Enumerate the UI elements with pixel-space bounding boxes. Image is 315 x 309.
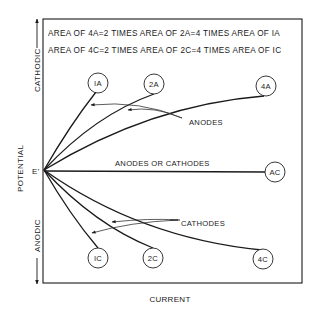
svg-text:IA: IA bbox=[94, 79, 102, 88]
circle-2A: 2A bbox=[144, 74, 164, 94]
plot-frame bbox=[43, 19, 302, 283]
circle-4A: 4A bbox=[256, 76, 276, 96]
potential-axis-label: POTENTIAL bbox=[16, 145, 25, 192]
origin-label: E' bbox=[32, 167, 40, 176]
anodes-label: ANODES bbox=[189, 118, 223, 127]
area-relation-cathodes: AREA OF 4C=2 TIMES AREA OF 2C=4 TIMES AR… bbox=[48, 46, 281, 55]
anodes-or-cathodes-label: ANODES OR CATHODES bbox=[115, 159, 210, 168]
curve-4C bbox=[44, 170, 262, 250]
svg-text:AC: AC bbox=[269, 168, 280, 177]
circle-1C: IC bbox=[88, 248, 108, 268]
svg-text:2A: 2A bbox=[149, 80, 160, 89]
curve-1A bbox=[44, 92, 96, 170]
anodes-leader-1 bbox=[91, 104, 182, 118]
curve-AC bbox=[44, 171, 265, 172]
circle-AC: AC bbox=[265, 162, 285, 182]
curve-1C bbox=[44, 170, 98, 248]
cathodic-label: CATHODIC bbox=[33, 48, 42, 92]
svg-text:4A: 4A bbox=[261, 82, 272, 91]
area-relation-anodes: AREA OF 4A=2 TIMES AREA OF 2A=4 TIMES AR… bbox=[48, 29, 280, 38]
anodic-label: ANODIC bbox=[33, 219, 42, 252]
current-axis-label: CURRENT bbox=[149, 295, 190, 304]
svg-text:4C: 4C bbox=[258, 255, 269, 264]
anodes-leader-2 bbox=[128, 109, 182, 118]
circle-4C: 4C bbox=[253, 249, 273, 269]
circle-2C: 2C bbox=[143, 248, 163, 268]
circle-1A: IA bbox=[88, 73, 108, 93]
cathodes-label: CATHODES bbox=[181, 219, 225, 228]
svg-text:2C: 2C bbox=[148, 254, 159, 263]
polarization-diagram: AREA OF 4A=2 TIMES AREA OF 2A=4 TIMES AR… bbox=[0, 0, 315, 309]
svg-text:IC: IC bbox=[94, 254, 102, 263]
